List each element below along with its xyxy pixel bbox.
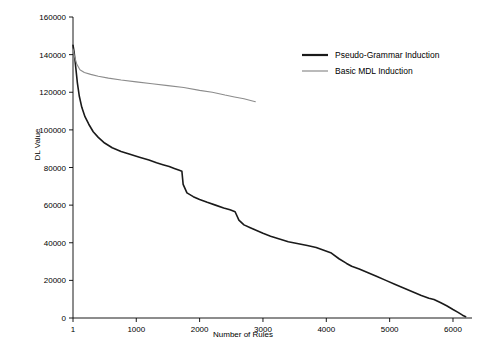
y-tick-label: 60000: [44, 201, 67, 210]
x-axis-title: Number of Rules: [0, 330, 486, 339]
y-tick-label: 140000: [39, 51, 66, 60]
legend-label-0: Pseudo-Grammar Induction: [335, 50, 440, 60]
y-tick-label: 0: [62, 314, 67, 323]
y-tick-label: 120000: [39, 88, 66, 97]
chart-container: 0200004000060000800001000001200001400001…: [0, 0, 486, 351]
legend-label-1: Basic MDL Induction: [335, 66, 413, 76]
line-chart-plot: 0200004000060000800001000001200001400001…: [0, 0, 486, 351]
chart-legend: Pseudo-Grammar InductionBasic MDL Induct…: [302, 50, 440, 76]
y-tick-label: 80000: [44, 164, 67, 173]
series-line-1: [73, 49, 255, 102]
axes: 0200004000060000800001000001200001400001…: [39, 13, 472, 334]
y-tick-label: 100000: [39, 126, 66, 135]
y-axis-title: DL Value: [33, 110, 42, 180]
y-tick-label: 160000: [39, 13, 66, 22]
data-series: [73, 45, 466, 316]
series-line-0: [73, 45, 466, 316]
y-tick-label: 20000: [44, 276, 67, 285]
y-tick-label: 40000: [44, 239, 67, 248]
